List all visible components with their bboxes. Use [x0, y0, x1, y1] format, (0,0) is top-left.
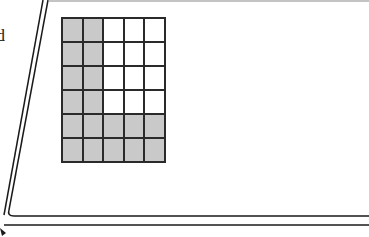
grid-cell-shaded	[83, 138, 104, 162]
grid-cell-shaded	[62, 42, 83, 66]
grid-cell-shaded	[83, 18, 104, 42]
grid-cell-empty	[103, 18, 124, 42]
grid-cell-shaded	[62, 18, 83, 42]
grid-cell-shaded	[83, 90, 104, 114]
grid-cell-shaded	[83, 114, 104, 138]
grid-cell-shaded	[124, 138, 145, 162]
grid-cell-shaded	[83, 42, 104, 66]
parallelogram-frame	[0, 0, 369, 237]
grid-cell-empty	[144, 90, 165, 114]
grid-cell-empty	[144, 42, 165, 66]
grid-cell-shaded	[144, 138, 165, 162]
grid-cell-shaded	[124, 114, 145, 138]
grid-cell-shaded	[62, 90, 83, 114]
grid-cell-empty	[124, 18, 145, 42]
grid-label: rid	[0, 26, 5, 46]
grid-cell-shaded	[62, 114, 83, 138]
grid-cell-shaded	[103, 114, 124, 138]
grid-cell-shaded	[62, 138, 83, 162]
grid-cell-empty	[124, 66, 145, 90]
grid-cell-empty	[103, 66, 124, 90]
grid-cell-empty	[124, 42, 145, 66]
grid-cell-empty	[124, 90, 145, 114]
grid-cell-shaded	[144, 114, 165, 138]
grid-cell-empty	[144, 66, 165, 90]
arrow-icon	[0, 228, 6, 236]
grid-cell-shaded	[103, 138, 124, 162]
shaded-grid	[61, 17, 166, 163]
grid-cell-empty	[144, 18, 165, 42]
grid-cell-shaded	[83, 66, 104, 90]
grid-cell-empty	[103, 42, 124, 66]
grid-cell-empty	[103, 90, 124, 114]
grid-cell-shaded	[62, 66, 83, 90]
